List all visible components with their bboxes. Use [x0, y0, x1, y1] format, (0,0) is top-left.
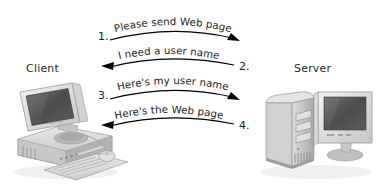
- message-arrows: 1. Please send Web page 2. I need a user…: [0, 0, 381, 192]
- message-2-number: 2.: [239, 60, 250, 73]
- message-4: 4. Here's the Web page: [101, 104, 250, 132]
- diagram-canvas: Client Server: [0, 0, 381, 192]
- message-1: 1. Please send Web page: [98, 16, 240, 43]
- message-3: 3. Here's my user name: [98, 75, 240, 102]
- message-4-number: 4.: [239, 119, 250, 132]
- message-2: 2. I need a user name: [101, 45, 250, 73]
- message-3-label: Here's my user name: [116, 75, 230, 92]
- message-1-number: 1.: [98, 30, 109, 43]
- message-3-number: 3.: [98, 89, 109, 102]
